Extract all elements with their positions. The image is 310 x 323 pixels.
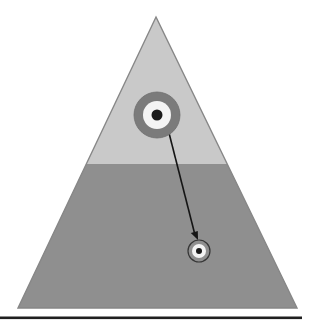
bottom-bar bbox=[0, 317, 302, 320]
small-target-center-dot bbox=[196, 248, 202, 254]
pyramid-diagram bbox=[0, 0, 310, 323]
big-bullseye-target bbox=[134, 92, 180, 138]
big-bullseye-center-dot bbox=[152, 110, 163, 121]
pyramid-lower-section bbox=[18, 164, 297, 308]
diagram-canvas bbox=[0, 0, 310, 323]
